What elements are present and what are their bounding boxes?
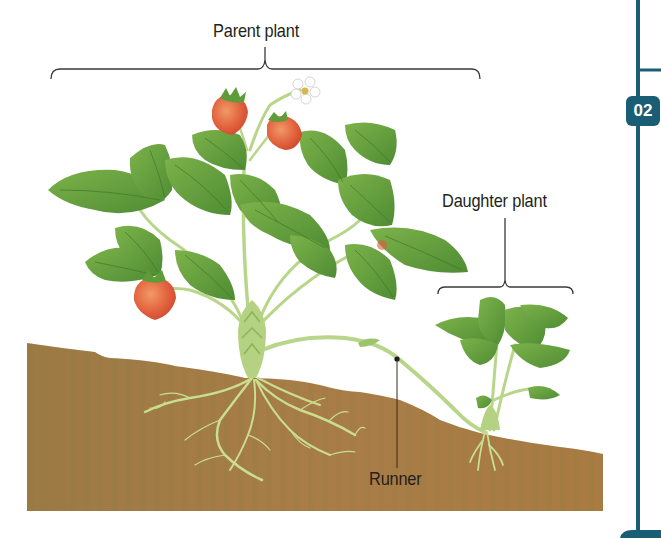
- strawberry-top-right: [267, 111, 302, 150]
- soil: [27, 343, 603, 511]
- parent-plant-label: Parent plant: [213, 20, 299, 42]
- strawberry-top-left: [212, 87, 248, 135]
- diagram-stage: Parent plant Daughter plant Runner 02: [0, 0, 661, 538]
- runner-label: Runner: [369, 468, 422, 490]
- section-line: [620, 0, 661, 538]
- strawberry-runner-illustration: [0, 0, 661, 538]
- section-number-badge: 02: [626, 96, 660, 126]
- strawberry-flower: [291, 77, 320, 104]
- parent-plant-bracket: [51, 47, 480, 79]
- daughter-plant-label: Daughter plant: [442, 190, 547, 212]
